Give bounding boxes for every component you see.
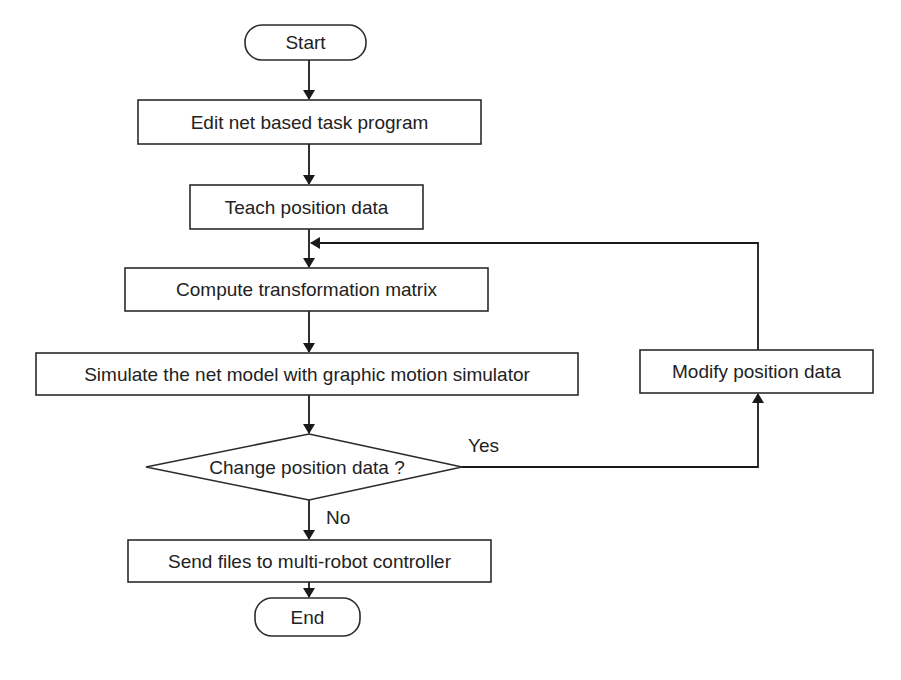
simulate-label: Simulate the net model with graphic moti… [84,364,530,385]
compute-process-box: Compute transformation matrix [125,268,488,311]
teach-process-box: Teach position data [190,185,423,229]
edge-decision-modify [462,394,758,467]
simulate-process-box: Simulate the net model with graphic moti… [36,353,578,395]
start-terminator: Start [245,25,366,60]
modify-label: Modify position data [672,361,841,382]
send-label: Send files to multi-robot controller [168,551,452,572]
edit-process-box: Edit net based task program [138,100,481,144]
end-label: End [291,607,325,628]
start-label: Start [285,32,326,53]
decision-label: Change position data ? [209,457,404,478]
flowchart: Start Edit net based task program Teach … [0,0,901,680]
modify-process-box: Modify position data [640,350,873,393]
edit-label: Edit net based task program [191,112,429,133]
no-edge-label: No [326,507,350,528]
compute-label: Compute transformation matrix [176,279,437,300]
decision-diamond: Change position data ? [146,434,462,500]
end-terminator: End [255,598,360,636]
yes-edge-label: Yes [468,435,499,456]
figure-caption-cropped [0,668,901,680]
send-process-box: Send files to multi-robot controller [128,540,491,582]
teach-label: Teach position data [225,197,389,218]
